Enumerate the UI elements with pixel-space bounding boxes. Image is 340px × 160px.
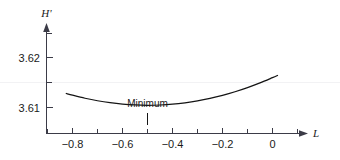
y-axis-title: H' xyxy=(40,7,52,19)
y-axis-arrow-icon xyxy=(43,23,50,32)
x-tick-label-neg-0-6: −0.6 xyxy=(112,138,134,150)
chart-figure: 3.62 3.61 H' −0.8 −0.6 −0.4 −0.2 0 L Min… xyxy=(0,0,340,160)
x-axis-title: L xyxy=(312,127,319,139)
x-tick-label-neg-0-8: −0.8 xyxy=(62,138,84,150)
x-tick-label-0: 0 xyxy=(269,138,275,150)
y-tick-label-3-62: 3.62 xyxy=(19,52,40,64)
data-curve-h-prime xyxy=(66,75,277,105)
x-tick-label-neg-0-2: −0.2 xyxy=(212,138,234,150)
x-tick-label-neg-0-4: −0.4 xyxy=(162,138,184,150)
x-axis-arrow-icon xyxy=(299,130,308,137)
y-tick-label-3-61: 3.61 xyxy=(19,102,40,114)
minimum-annotation-label: Minimum xyxy=(127,98,168,109)
chart-plot-area: 3.62 3.61 H' −0.8 −0.6 −0.4 −0.2 0 L Min… xyxy=(0,0,340,160)
